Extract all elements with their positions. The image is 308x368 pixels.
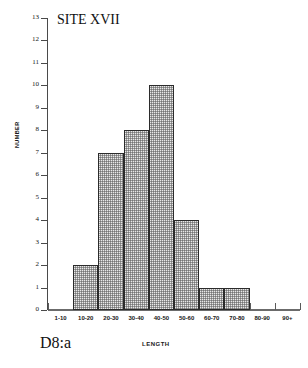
histogram-figure: SITE XVII NUMBER LENGTH 1312111098765432… — [0, 0, 308, 368]
y-axis-tick — [41, 108, 47, 109]
y-axis-tick — [41, 243, 47, 244]
y-axis-tick-label-text: 9 — [23, 104, 39, 111]
y-axis-tick-label: 9 — [22, 104, 39, 112]
y-axis-tick-label-text: 2 — [23, 261, 39, 268]
y-axis-tick — [41, 220, 47, 221]
histogram-bar — [124, 130, 149, 310]
y-axis-tick-label: 6 — [22, 171, 39, 179]
y-axis-tick-label-text: 8 — [23, 126, 39, 133]
y-axis-tick — [41, 198, 47, 199]
y-axis-tick-label-text: 0 — [23, 306, 39, 313]
histogram-bar — [73, 265, 98, 310]
y-axis-tick — [41, 40, 47, 41]
y-axis-tick-label-text: 11 — [23, 59, 39, 66]
y-axis-tick-label-text: 6 — [23, 171, 39, 178]
y-axis-tick — [41, 153, 47, 154]
y-axis-tick-label: 0 — [22, 306, 39, 314]
x-axis-tick — [300, 303, 301, 310]
y-axis-tick-label-text: 4 — [23, 216, 39, 223]
y-axis-tick — [41, 63, 47, 64]
y-axis-tick-label: 2 — [22, 261, 39, 269]
histogram-bar — [149, 85, 174, 310]
histogram-bar — [224, 288, 249, 310]
y-axis-tick-label: 4 — [22, 216, 39, 224]
bars-layer — [48, 18, 300, 310]
y-axis-tick-label-text: 5 — [23, 194, 39, 201]
y-axis-tick — [41, 18, 47, 19]
y-axis-tick-label-text: 10 — [23, 81, 39, 88]
y-axis-tick — [41, 85, 47, 86]
y-axis-tick-label-text: 13 — [23, 14, 39, 21]
histogram-bar — [199, 288, 224, 310]
y-axis-tick — [41, 310, 47, 311]
histogram-bar — [98, 153, 123, 310]
y-axis-tick — [41, 288, 47, 289]
y-axis-tick-label-text: 1 — [23, 284, 39, 291]
y-axis-title: NUMBER — [14, 121, 20, 148]
y-axis-tick — [41, 175, 47, 176]
y-axis-tick-label: 10 — [22, 81, 39, 89]
y-axis-tick-label: 1 — [22, 284, 39, 292]
y-axis-tick-label: 5 — [22, 194, 39, 202]
y-axis-tick-label-text: 12 — [23, 36, 39, 43]
y-axis-tick — [41, 130, 47, 131]
figure-caption: D8:a — [40, 334, 71, 352]
y-axis-tick-label: 13 — [22, 14, 39, 22]
y-axis-tick-label: 3 — [22, 239, 39, 247]
histogram-bar — [174, 220, 199, 310]
x-axis-title: LENGTH — [142, 341, 170, 347]
y-axis-tick-label: 11 — [22, 59, 39, 67]
y-axis-tick — [41, 265, 47, 266]
x-axis-bin-label: 90+ — [271, 315, 304, 322]
y-axis-tick-label-text: 7 — [23, 149, 39, 156]
y-axis-tick-label: 12 — [22, 36, 39, 44]
y-axis-tick-label: 8 — [22, 126, 39, 134]
y-axis-tick-label: 7 — [22, 149, 39, 157]
y-axis-tick-label-text: 3 — [23, 239, 39, 246]
